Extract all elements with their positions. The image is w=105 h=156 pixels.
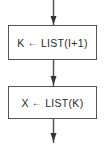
- process-box-assign-x: X ← LIST(K): [8, 86, 97, 119]
- left-arrow-icon: ←: [32, 98, 42, 108]
- process-box-label: K ← LIST(I+1): [17, 37, 87, 49]
- left-arrow-icon: ←: [28, 38, 38, 48]
- assignment-expression: LIST(I+1): [41, 37, 88, 49]
- flowchart-diagram: K ← LIST(I+1) X ← LIST(K): [0, 0, 105, 156]
- process-box-assign-k: K ← LIST(I+1): [8, 25, 97, 60]
- assignment-target: K: [17, 37, 24, 49]
- process-box-label: X ← LIST(K): [22, 97, 84, 109]
- entry-arrow-icon: [51, 0, 57, 25]
- connector-arrow-icon: [51, 60, 57, 86]
- exit-arrow-icon: [51, 119, 57, 143]
- flowchart-connectors: [0, 0, 105, 156]
- assignment-target: X: [22, 97, 29, 109]
- assignment-expression: LIST(K): [45, 97, 83, 109]
